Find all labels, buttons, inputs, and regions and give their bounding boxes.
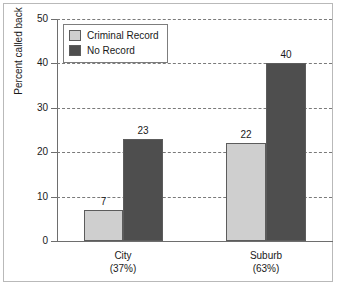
legend-swatch-icon-criminal-record [69,30,81,41]
bar-value-city-no-record: 23 [123,126,163,136]
x-group-label-suburb: Suburb (63%) [226,249,306,275]
y-tick-label-40: 40 [26,58,48,68]
x-axis-line [57,241,333,242]
y-tick-label-50: 50 [26,14,48,24]
bar-chart-figure: Percent called back 50 40 30 20 10 0 7 2… [0,0,347,288]
bar-value-suburb-criminal-record: 22 [226,130,266,140]
legend-item-criminal-record[interactable]: Criminal Record [69,28,159,43]
y-tick-label-20: 20 [26,147,48,157]
legend-label-no-record: No Record [87,45,135,56]
y-tick-label-10: 10 [26,192,48,202]
legend-item-no-record[interactable]: No Record [69,43,159,58]
bar-value-suburb-no-record: 40 [266,50,306,60]
x-group-label-city: City (37%) [83,249,163,275]
bar-city-no-record[interactable] [123,139,163,241]
y-tick-mark-0 [51,241,57,242]
x-group-sub-suburb: (63%) [226,262,306,275]
x-group-name-suburb: Suburb [226,249,306,262]
legend-swatch-icon-no-record [69,45,81,56]
y-tick-label-0: 0 [26,236,48,246]
bar-suburb-criminal-record[interactable] [226,143,266,241]
bar-suburb-no-record[interactable] [266,63,306,241]
legend-label-criminal-record: Criminal Record [87,30,159,41]
x-group-name-city: City [83,249,163,262]
y-axis-title: Percent called back [14,0,24,116]
x-group-sub-city: (37%) [83,262,163,275]
bar-city-criminal-record[interactable] [84,210,123,241]
bar-value-city-criminal-record: 7 [84,197,123,207]
y-tick-label-30: 30 [26,103,48,113]
gridline-50 [57,19,332,20]
legend[interactable]: Criminal Record No Record [63,24,168,63]
